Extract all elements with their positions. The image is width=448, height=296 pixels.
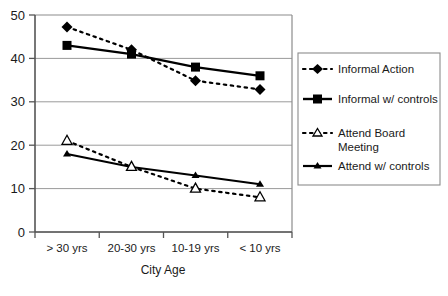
x-tick-label-1: 20-30 yrs bbox=[108, 242, 156, 254]
x-axis-title: City Age bbox=[141, 263, 186, 277]
y-tick-label-30: 30 bbox=[11, 94, 25, 109]
chart-container: 0 10 20 30 40 50 > 30 yrs 20-30 yrs 10-1… bbox=[0, 0, 448, 296]
legend-label-attend-w-controls: Attend w/ controls bbox=[338, 160, 430, 172]
legend-label-informal-action: Informal Action bbox=[338, 63, 414, 75]
x-tick-label-0: > 30 yrs bbox=[46, 242, 87, 254]
x-tick-marks bbox=[35, 232, 292, 238]
legend-marker-filled-square-icon bbox=[313, 95, 322, 104]
x-tick-label-2: 10-19 yrs bbox=[172, 242, 220, 254]
y-tick-marks bbox=[29, 15, 35, 232]
chart-legend: Informal Action Informal w/ controls Att… bbox=[298, 53, 440, 185]
data-point-informal-w-controls-2 bbox=[191, 63, 200, 72]
legend-label-attend-board-meeting-line1: Attend Board bbox=[338, 127, 405, 139]
line-chart: 0 10 20 30 40 50 > 30 yrs 20-30 yrs 10-1… bbox=[0, 0, 448, 296]
legend-label-attend-board-meeting-line2: Meeting bbox=[338, 141, 379, 153]
y-tick-label-0: 0 bbox=[18, 225, 25, 240]
y-tick-label-40: 40 bbox=[11, 51, 25, 66]
x-tick-label-3: < 10 yrs bbox=[239, 242, 280, 254]
legend-label-informal-w-controls: Informal w/ controls bbox=[338, 93, 438, 105]
data-point-informal-w-controls-3 bbox=[256, 71, 265, 80]
data-point-informal-w-controls-0 bbox=[63, 41, 72, 50]
y-tick-label-10: 10 bbox=[11, 181, 25, 196]
y-tick-label-50: 50 bbox=[11, 8, 25, 23]
y-tick-label-20: 20 bbox=[11, 138, 25, 153]
plot-area-background bbox=[35, 15, 292, 232]
